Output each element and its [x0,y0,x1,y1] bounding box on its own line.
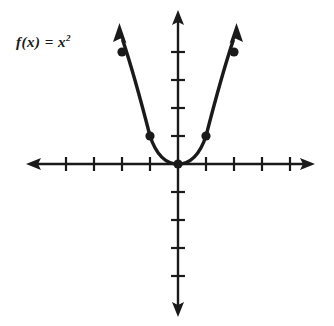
function-label-text: f(x) = x [16,34,66,50]
graph-figure: f(x) = x2 [0,0,334,326]
parabola-left-arrow-icon [113,23,127,44]
data-point--2-4 [117,47,126,56]
function-label-exponent: 2 [66,33,71,43]
data-point--1-1 [145,131,154,140]
function-label: f(x) = x2 [16,33,71,51]
data-point-2-4 [229,47,238,56]
data-point-0-0 [173,159,182,168]
data-point-1-1 [201,131,210,140]
parabola-right-arrow-icon [230,23,244,44]
